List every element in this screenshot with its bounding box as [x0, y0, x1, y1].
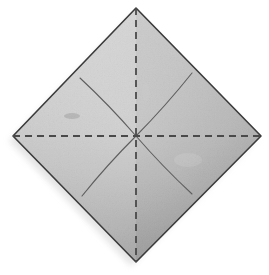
- paper-smudge: [64, 113, 80, 119]
- origami-diagram: [0, 0, 269, 275]
- origami-figure: Origami square preliminary crease patter…: [0, 0, 269, 275]
- paper-crease-mark: [142, 82, 150, 102]
- paper-highlight-mark: [174, 153, 202, 167]
